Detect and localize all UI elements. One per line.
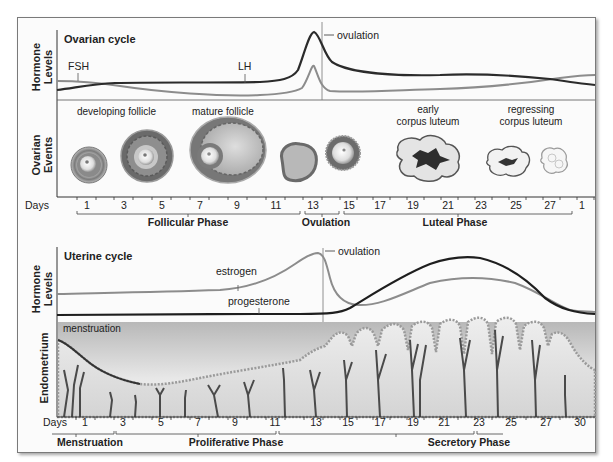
day-tick-label: 7 [197,199,203,211]
day-tick-label: 3 [120,416,126,428]
regressing-corpus-luteum-label-2: corpus luteum [500,116,563,127]
fsh-curve [57,66,595,96]
endometrium-panel: menstruation [57,318,595,417]
secretory-phase-label: Secretory Phase [428,436,510,448]
uterine-cycle-title: Uterine cycle [64,250,132,262]
day-tick-label: 21 [438,416,450,428]
day-tick-label: 9 [234,199,240,211]
menstruation-label: menstruation [63,323,121,334]
proliferative-phase-bracket [116,431,276,434]
ylabel-line: Ovarian [30,125,42,185]
ylabel-line: Levels [42,259,54,319]
ovarian-days-axis: Days 1 3 5 7 9 11 13 15 17 19 21 23 25 2… [25,197,594,228]
follicular-phase-label: Follicular Phase [148,216,229,228]
estrogen-label: estrogen [216,265,257,277]
day-tick-label: 19 [407,199,419,211]
day-tick-label: 7 [195,416,201,428]
ylabel-line: Hormone [30,37,42,97]
ovarian-days-label: Days [25,199,49,211]
day-tick-label: 15 [343,199,355,211]
ovulation-phase-label: Ovulation [302,216,350,228]
regressing-corpus-luteum-label-1: regressing [508,104,555,115]
ovarian-cycle-title: Ovarian cycle [64,33,136,45]
uterine-hormone-levels-ylabel: Hormone Levels [30,259,54,319]
day-tick-label: 5 [158,416,164,428]
day-tick-label: 17 [374,416,386,428]
day-tick-label: 13 [307,199,319,211]
mature-follicle-illustration [190,117,266,183]
day-tick-label: 21 [442,199,454,211]
menstrual-cycle-diagram: Ovarian cycle ovulation FSH LH developin… [0,0,613,462]
ovarian-events-panel: developing follicle mature follicle earl… [71,104,567,183]
day-tick-label: 23 [475,199,487,211]
day-tick-label: 1 [84,199,90,211]
uterine-days-axis: Days 1 3 5 7 9 11 13 15 17 19 21 23 25 2… [43,416,586,448]
menstruation-phase-label: Menstruation [57,436,123,448]
day-tick-label: 5 [159,199,165,211]
day-tick-label: 17 [374,199,386,211]
lh-curve [57,32,595,90]
day-tick-label: 1 [82,416,88,428]
primary-follicle-illustration [71,147,107,183]
ylabel-line: Events [42,125,54,185]
day-tick-label: 30 [574,416,586,428]
estrogen-curve [57,253,595,312]
ovulation-bracket [305,211,339,214]
day-tick-label: 11 [271,199,282,211]
day-tick-label: 9 [232,416,238,428]
secretory-phase-bracket [279,431,474,434]
day-tick-label: 15 [342,416,354,428]
fsh-label: FSH [68,60,89,72]
day-tick-label: 19 [407,416,419,428]
day-tick-label: 27 [544,199,556,211]
proliferative-phase-label: Proliferative Phase [189,436,284,448]
early-corpus-luteum-label-1: early [417,104,439,115]
corpus-albicans-illustration [541,148,568,173]
day-tick-label: 1 [579,199,585,211]
ruptured-follicle-illustration [281,144,316,181]
luteal-phase-bracket [344,211,572,214]
ovulation-label: ovulation [337,29,379,41]
day-tick-label: 13 [310,416,322,428]
day-tick-label: 27 [540,416,552,428]
progesterone-label: progesterone [228,295,290,307]
luteal-phase-label: Luteal Phase [423,216,488,228]
released-oocyte-illustration [326,136,360,170]
ylabel-line: Hormone [30,259,42,319]
mature-follicle-label: mature follicle [192,106,254,117]
day-tick-label: 25 [510,199,522,211]
uterine-days-label: Days [43,416,67,428]
day-tick-label: 11 [270,416,281,428]
day-tick-label: 25 [505,416,517,428]
menstruation-bracket [52,431,114,434]
ovarian-events-ylabel: Ovarian Events [30,125,54,185]
early-corpus-luteum-illustration [397,136,459,182]
ovarian-hormone-levels-ylabel: Hormone Levels [30,37,54,97]
follicular-phase-bracket [77,211,300,214]
early-corpus-luteum-label-2: corpus luteum [397,116,460,127]
ylabel-line: Levels [42,37,54,97]
developing-follicle-label: developing follicle [77,106,156,117]
secondary-follicle-illustration [121,130,173,182]
lh-label: LH [238,60,251,72]
regressing-corpus-luteum-illustration [487,146,530,176]
uterine-ovulation-label: ovulation [338,245,380,257]
day-tick-label: 3 [121,199,127,211]
endometrium-ylabel: Endometrium [38,328,50,408]
